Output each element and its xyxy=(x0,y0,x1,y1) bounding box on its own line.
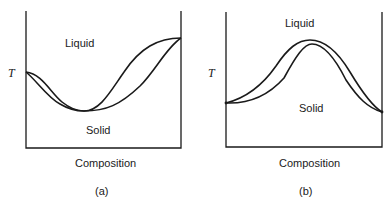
phase-diagrams-canvas xyxy=(0,0,392,204)
panel-b-left-junction xyxy=(225,102,228,105)
panel-b-caption: (b) xyxy=(299,185,312,197)
panel-a-composition-label: Composition xyxy=(75,157,136,169)
panel-a-t-axis-label: T xyxy=(8,66,15,81)
panel-a-solid-label: Solid xyxy=(86,124,110,136)
panel-b-composition-label: Composition xyxy=(279,157,340,169)
panel-a-caption: (a) xyxy=(95,185,108,197)
panel-a-liquid-label: Liquid xyxy=(65,37,94,49)
panel-b-frame xyxy=(226,12,382,147)
panel-a-liquidus-curve xyxy=(26,38,181,111)
panel-b-t-axis-label: T xyxy=(208,66,215,81)
panel-b-solid-label: Solid xyxy=(299,102,323,114)
panel-b-liquid-label: Liquid xyxy=(285,17,314,29)
panel-b-right-junction xyxy=(381,111,384,114)
